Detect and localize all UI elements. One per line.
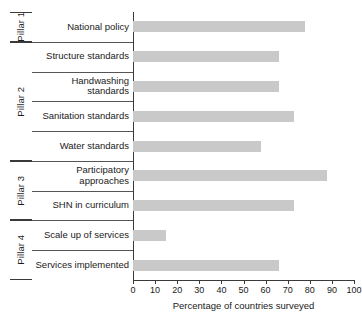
category-label-text: Structure standards	[46, 51, 129, 62]
row-separator	[32, 161, 133, 162]
category-label-text: SHN in curriculum	[52, 200, 129, 211]
bar	[133, 170, 327, 181]
row-separator	[32, 220, 133, 221]
value-axis-tick-label: 60	[261, 285, 271, 295]
category-label: SHN in curriculum	[32, 191, 133, 221]
bar	[133, 200, 294, 211]
value-axis-tick-label: 30	[194, 285, 204, 295]
pillar-group: Pillar 2	[10, 42, 32, 161]
row-separator	[32, 131, 133, 132]
category-label: Participatory approaches	[32, 161, 133, 191]
category-label: National policy	[32, 12, 133, 42]
category-label: Scale up of services	[32, 220, 133, 250]
value-axis-tick	[177, 280, 178, 284]
bar	[133, 51, 279, 62]
value-axis-tick	[244, 280, 245, 284]
category-label: Sanitation standards	[32, 101, 133, 131]
value-axis-tick-label: 40	[216, 285, 226, 295]
bar	[133, 141, 261, 152]
value-axis-tick-label: 100	[346, 285, 361, 295]
value-axis-tick	[310, 280, 311, 284]
category-label-text: Handwashing standards	[32, 76, 129, 97]
category-axis: Pillar 1Pillar 2Pillar 3Pillar 4 Nationa…	[10, 12, 133, 280]
bar	[133, 81, 279, 92]
row-separator	[32, 42, 133, 43]
bar	[133, 21, 305, 32]
pillar-group-label: Pillar 2	[16, 86, 26, 116]
value-axis-tick	[221, 280, 222, 284]
pillar-group: Pillar 3	[10, 161, 32, 221]
value-axis-tick-label: 10	[150, 285, 160, 295]
value-axis-tick	[332, 280, 333, 284]
category-label: Services implemented	[32, 250, 133, 280]
value-axis-tick	[354, 280, 355, 284]
category-label-text: Services implemented	[36, 260, 129, 271]
row-separator	[32, 101, 133, 102]
value-axis-title: Percentage of countries surveyed	[133, 300, 354, 311]
value-axis-tick	[155, 280, 156, 284]
value-axis-tick-label: 50	[238, 285, 248, 295]
row-separator	[32, 250, 133, 251]
value-axis-tick-label: 90	[327, 285, 337, 295]
row-separator	[32, 72, 133, 73]
category-label: Handwashing standards	[32, 72, 133, 102]
value-axis-tick	[288, 280, 289, 284]
category-label: Water standards	[32, 131, 133, 161]
pillar-group-label: Pillar 4	[16, 235, 26, 265]
category-label: Structure standards	[32, 42, 133, 72]
value-axis-tick	[266, 280, 267, 284]
value-axis-tick	[199, 280, 200, 284]
category-label-column: National policyStructure standardsHandwa…	[32, 12, 133, 280]
bar	[133, 260, 279, 271]
pillar-group-label: Pillar 3	[16, 176, 26, 206]
row-separator	[32, 191, 133, 192]
value-axis: 0102030405060708090100 Percentage of cou…	[10, 280, 354, 323]
bars-container	[133, 12, 354, 280]
category-label-text: Water standards	[60, 141, 129, 152]
value-axis-tick-label: 80	[305, 285, 315, 295]
pillar-group-label: Pillar 1	[16, 12, 26, 42]
bar	[133, 111, 294, 122]
plot-area: Pillar 1Pillar 2Pillar 3Pillar 4 Nationa…	[10, 12, 354, 280]
category-label-text: Scale up of services	[44, 230, 129, 241]
value-axis-tick-label: 0	[130, 285, 135, 295]
category-label-text: National policy	[67, 22, 129, 33]
bar	[133, 230, 166, 241]
category-label-text: Participatory approaches	[32, 165, 129, 186]
value-axis-tick	[133, 280, 134, 284]
category-label-text: Sanitation standards	[42, 111, 129, 122]
value-axis-tick-label: 70	[283, 285, 293, 295]
pillar-group: Pillar 1	[10, 12, 32, 42]
pillar-group-column: Pillar 1Pillar 2Pillar 3Pillar 4	[10, 12, 32, 280]
value-axis-tick-label: 20	[172, 285, 182, 295]
pillar-group: Pillar 4	[10, 220, 32, 280]
